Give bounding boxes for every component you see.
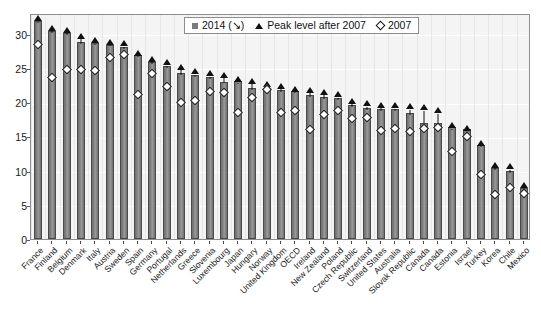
bar-group[interactable] (306, 15, 314, 239)
peak-marker-icon[interactable] (77, 33, 85, 39)
peak-marker-icon[interactable] (320, 89, 328, 95)
peak-marker-icon[interactable] (477, 140, 485, 146)
peak-marker-icon[interactable] (520, 182, 528, 188)
bar-group[interactable] (120, 15, 128, 239)
x-axis-tick-mark (480, 241, 481, 244)
x-axis-tick-mark (194, 241, 195, 244)
bar-2014[interactable] (234, 81, 242, 239)
vertical-gridline (45, 15, 46, 239)
bar-2014[interactable] (48, 31, 56, 239)
bar-2014[interactable] (420, 123, 428, 239)
bar-group[interactable] (277, 15, 285, 239)
peak-marker-icon[interactable] (248, 78, 256, 84)
peak-marker-icon[interactable] (363, 100, 371, 106)
bar-group[interactable] (206, 15, 214, 239)
bar-group[interactable] (34, 15, 42, 239)
bar-group[interactable] (248, 15, 256, 239)
bar-2014[interactable] (506, 171, 514, 239)
bar-group[interactable] (148, 15, 156, 239)
vertical-gridline (217, 15, 218, 239)
peak-marker-icon[interactable] (391, 102, 399, 108)
peak-marker-icon[interactable] (48, 25, 56, 31)
peak-marker-icon[interactable] (91, 37, 99, 43)
peak-marker-icon[interactable] (177, 64, 185, 70)
y-axis-tick-label: 0 (3, 235, 27, 245)
vertical-gridline (245, 15, 246, 239)
x-axis-tick-mark (309, 241, 310, 244)
bar-group[interactable] (363, 15, 371, 239)
bar-group[interactable] (163, 15, 171, 239)
bar-group[interactable] (220, 15, 228, 239)
peak-marker-icon[interactable] (348, 98, 356, 104)
bar-2014[interactable] (34, 21, 42, 239)
y-axis-tick-label: 10 (3, 167, 27, 177)
peak-marker-icon[interactable] (277, 83, 285, 89)
peak-marker-icon[interactable] (463, 125, 471, 131)
bar-2014[interactable] (120, 47, 128, 239)
peak-marker-icon[interactable] (106, 39, 114, 45)
bar-group[interactable] (406, 15, 414, 239)
bar-group[interactable] (48, 15, 56, 239)
x-axis-tick-mark (209, 241, 210, 244)
bar-group[interactable] (263, 15, 271, 239)
bar-2014[interactable] (106, 45, 114, 239)
bar-group[interactable] (106, 15, 114, 239)
vertical-gridline (317, 15, 318, 239)
bar-2014[interactable] (220, 82, 228, 240)
bar-2014[interactable] (163, 66, 171, 239)
bar-2014[interactable] (148, 62, 156, 239)
bar-group[interactable] (463, 15, 471, 239)
bar-group[interactable] (506, 15, 514, 239)
bar-group[interactable] (77, 15, 85, 239)
bar-group[interactable] (434, 15, 442, 239)
peak-marker-icon[interactable] (448, 122, 456, 128)
bar-group[interactable] (291, 15, 299, 239)
peak-marker-icon[interactable] (506, 163, 514, 169)
peak-marker-icon[interactable] (491, 162, 499, 168)
bar-2014[interactable] (448, 127, 456, 239)
peak-marker-icon[interactable] (206, 70, 214, 76)
vertical-gridline (460, 15, 461, 239)
x-axis: FranceFinlandBelgiumDenmarkItalyAustriaS… (30, 241, 530, 314)
peak-marker-icon[interactable] (234, 76, 242, 82)
bar-group[interactable] (520, 15, 528, 239)
bar-2014[interactable] (463, 129, 471, 239)
peak-connector-line (295, 92, 296, 93)
peak-marker-icon[interactable] (120, 40, 128, 46)
x-axis-tick-mark (223, 241, 224, 244)
peak-marker-icon[interactable] (220, 72, 228, 78)
peak-marker-icon[interactable] (163, 59, 171, 65)
bar-2014[interactable] (477, 145, 485, 239)
peak-connector-line (481, 146, 482, 147)
peak-marker-icon[interactable] (420, 104, 428, 110)
bar-group[interactable] (177, 15, 185, 239)
peak-marker-icon[interactable] (406, 103, 414, 109)
peak-marker-icon[interactable] (306, 87, 314, 93)
bar-group[interactable] (191, 15, 199, 239)
peak-marker-icon[interactable] (148, 56, 156, 62)
peak-marker-icon[interactable] (134, 50, 142, 56)
bar-group[interactable] (420, 15, 428, 239)
vertical-gridline (260, 15, 261, 239)
bar-group[interactable] (377, 15, 385, 239)
bar-group[interactable] (491, 15, 499, 239)
x-axis-tick-mark (466, 241, 467, 244)
bar-group[interactable] (134, 15, 142, 239)
peak-marker-icon[interactable] (291, 86, 299, 92)
bar-2014[interactable] (134, 55, 142, 239)
bar-group[interactable] (63, 15, 71, 239)
peak-marker-icon[interactable] (63, 27, 71, 33)
bar-group[interactable] (477, 15, 485, 239)
x-axis-tick-mark (337, 241, 338, 244)
peak-marker-icon[interactable] (334, 91, 342, 97)
peak-marker-icon[interactable] (377, 102, 385, 108)
x-axis-tick-mark (180, 241, 181, 244)
peak-marker-icon[interactable] (434, 107, 442, 113)
peak-marker-icon[interactable] (191, 68, 199, 74)
peak-marker-icon[interactable] (34, 15, 42, 21)
bar-group[interactable] (348, 15, 356, 239)
bar-group[interactable] (334, 15, 342, 239)
bar-group[interactable] (234, 15, 242, 239)
bar-2014[interactable] (334, 98, 342, 239)
bar-group[interactable] (91, 15, 99, 239)
